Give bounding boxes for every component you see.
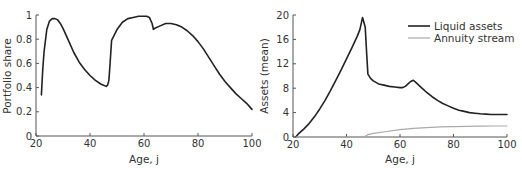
portfolio-share-y-tick-label: 0.6 bbox=[16, 58, 32, 69]
legend-label-annuity-stream: Annuity stream bbox=[434, 32, 515, 44]
portfolio-share-chart: 20406080100 00.20.40.60.81 Age, j Portfo… bbox=[1, 10, 262, 166]
portfolio-share-x-tick-label: 40 bbox=[84, 138, 97, 149]
portfolio-share-y-axis-title: Portfolio share bbox=[1, 38, 13, 114]
portfolio-share-x-tick-label: 80 bbox=[192, 138, 205, 149]
portfolio-share-x-ticks: 20406080100 bbox=[30, 133, 262, 149]
portfolio-share-y-tick-label: 0 bbox=[26, 131, 32, 142]
portfolio-share-line-portfolio-share bbox=[41, 16, 252, 109]
assets-y-tick-label: 8 bbox=[283, 83, 289, 94]
portfolio-share-x-tick-label: 100 bbox=[242, 138, 261, 149]
assets-x-tick-label: 80 bbox=[447, 139, 460, 150]
portfolio-share-y-tick-label: 0.2 bbox=[16, 106, 32, 117]
assets-x-tick-label: 60 bbox=[394, 139, 407, 150]
assets-line-annuity-stream bbox=[296, 126, 507, 137]
assets-y-tick-label: 12 bbox=[276, 58, 289, 69]
assets-y-tick-label: 16 bbox=[276, 34, 289, 45]
portfolio-share-y-tick-label: 0.4 bbox=[16, 82, 32, 93]
portfolio-share-x-axis-title: Age, j bbox=[129, 153, 159, 165]
assets-x-tick-label: 40 bbox=[340, 139, 353, 150]
figure: 20406080100 00.20.40.60.81 Age, j Portfo… bbox=[0, 0, 522, 175]
assets-legend: Liquid assets Annuity stream bbox=[408, 20, 515, 44]
assets-y-axis-title: Assets (mean) bbox=[258, 38, 270, 113]
portfolio-share-y-tick-label: 0.8 bbox=[16, 34, 32, 45]
assets-y-tick-label: 0 bbox=[283, 132, 289, 143]
legend-label-liquid-assets: Liquid assets bbox=[434, 20, 502, 32]
portfolio-share-series bbox=[41, 16, 252, 109]
portfolio-share-y-tick-label: 1 bbox=[26, 10, 32, 21]
assets-x-tick-label: 100 bbox=[497, 139, 516, 150]
assets-x-axis-title: Age, j bbox=[385, 153, 415, 165]
assets-chart: 20406080100 048121620 Age, j Assets (mea… bbox=[258, 10, 517, 166]
assets-y-tick-label: 4 bbox=[283, 107, 289, 118]
assets-y-tick-label: 20 bbox=[276, 10, 289, 21]
portfolio-share-x-tick-label: 60 bbox=[138, 138, 151, 149]
